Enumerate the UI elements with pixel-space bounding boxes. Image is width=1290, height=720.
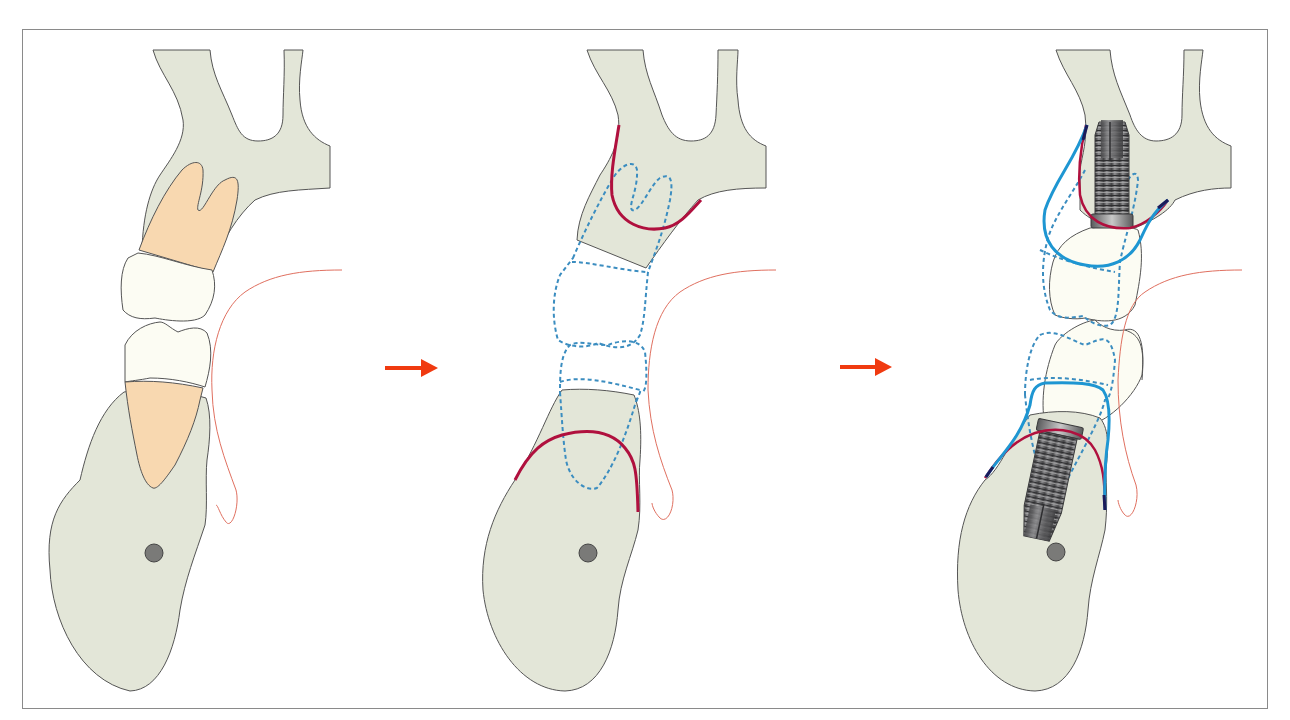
arrow-2-icon [840,358,892,376]
mandibular-canal [1047,543,1065,561]
lower-prosthetic-crown [1043,320,1143,425]
mandibular-canal [579,544,597,562]
lip-line [1118,270,1242,516]
panel-3 [957,50,1242,691]
lip-line [648,270,776,519]
panel-2 [483,50,776,691]
upper-prosthetic-crown [1049,227,1141,321]
lip-line [212,270,342,524]
upper-implant [1091,120,1133,228]
mandible [957,412,1107,691]
mandibular-canal [145,544,163,562]
dashed-cej-line [560,379,640,390]
panel-1 [49,50,342,691]
lower-crown [125,322,211,387]
diagram-canvas [0,0,1290,720]
dental-implant-diagram [0,0,1290,720]
arrow-1-icon [385,359,438,377]
maxilla [577,50,766,268]
